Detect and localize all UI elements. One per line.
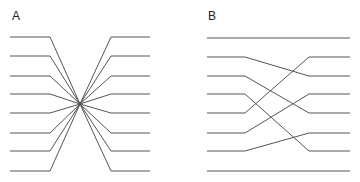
panel-b-line bbox=[207, 133, 350, 151]
panel-b-line bbox=[207, 57, 350, 113]
panel-a-lines bbox=[10, 37, 150, 171]
panel-b-line bbox=[207, 57, 350, 76]
panel-b-line bbox=[207, 94, 350, 151]
diagram-canvas bbox=[0, 0, 360, 182]
panel-b-lines bbox=[207, 38, 350, 171]
